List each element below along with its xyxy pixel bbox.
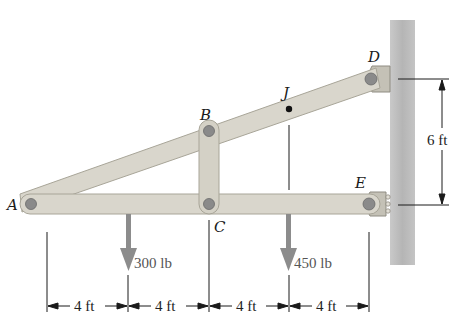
dim-label-4: 4 ft [316, 298, 337, 314]
label-j: J [280, 84, 290, 102]
label-e: E [354, 174, 366, 192]
roller-icon [386, 195, 390, 199]
pin-a [26, 199, 37, 210]
dim-label-vertical: 6 ft [427, 132, 448, 148]
pin-e [363, 198, 375, 210]
roller-icon [386, 209, 390, 213]
wall [390, 20, 415, 265]
dim-label-1: 4 ft [74, 298, 95, 314]
dim-label-2: 4 ft [155, 298, 176, 314]
label-d: D [367, 48, 380, 66]
label-a: A [5, 196, 18, 214]
pin-b [204, 126, 215, 137]
load-label-450: 450 lb [294, 255, 332, 271]
dim-label-3: 4 ft [236, 298, 257, 314]
label-b: B [199, 106, 211, 124]
load-label-300: 300 lb [134, 255, 172, 271]
truss-diagram: A B C D E J 300 lb 450 lb 4 ft 4 ft 4 ft… [0, 0, 468, 331]
point-j [286, 106, 292, 112]
roller-icon [386, 202, 390, 206]
pin-d [365, 73, 377, 85]
pin-c [204, 199, 215, 210]
label-c: C [214, 218, 226, 236]
